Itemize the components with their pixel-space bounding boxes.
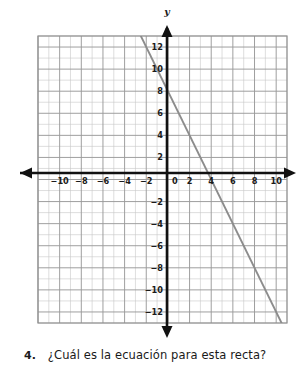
x-tick-label: 0 xyxy=(172,176,178,186)
x-tick-label: −4 xyxy=(118,176,131,186)
y-axis-label: y xyxy=(163,6,171,17)
x-axis-left-arrow xyxy=(20,168,32,179)
x-tick-label: 10 xyxy=(270,176,282,186)
y-axis-bottom-arrow xyxy=(162,326,173,338)
x-tick-label: 4 xyxy=(208,176,214,186)
coordinate-plane: −10−8−6−4−20246810 12108642−2−4−6−8−10−1… xyxy=(0,0,300,340)
y-axis-top-arrow xyxy=(162,25,173,37)
y-tick-label: 10 xyxy=(152,64,164,74)
x-tick-label: 6 xyxy=(230,176,236,186)
question-number: 4. xyxy=(24,349,36,362)
x-axis-right-arrow xyxy=(284,168,296,179)
y-tick-label: 8 xyxy=(157,86,163,96)
y-tick-label: 2 xyxy=(157,152,163,162)
y-tick-label: 6 xyxy=(157,108,163,118)
x-tick-label: −2 xyxy=(140,176,153,186)
y-tick-label: −6 xyxy=(150,241,163,251)
y-tick-label: −12 xyxy=(145,307,163,317)
x-tick-label: −8 xyxy=(75,176,88,186)
x-tick-label: −6 xyxy=(97,176,110,186)
y-tick-label: −4 xyxy=(150,219,163,229)
question-block: 4. ¿Cuál es la ecuación para esta recta? xyxy=(0,338,300,372)
y-tick-label: −2 xyxy=(150,197,163,207)
y-tick-label: −8 xyxy=(150,263,163,273)
coordinate-graph-figure: −10−8−6−4−20246810 12108642−2−4−6−8−10−1… xyxy=(0,0,300,340)
question-text: ¿Cuál es la ecuación para esta recta? xyxy=(48,348,266,362)
y-tick-label: 4 xyxy=(157,130,163,140)
x-tick-label: 2 xyxy=(187,176,193,186)
y-tick-label: 12 xyxy=(152,42,163,52)
x-tick-label: −10 xyxy=(51,176,70,186)
x-tick-label: 8 xyxy=(252,176,258,186)
y-tick-label: −10 xyxy=(145,285,164,295)
